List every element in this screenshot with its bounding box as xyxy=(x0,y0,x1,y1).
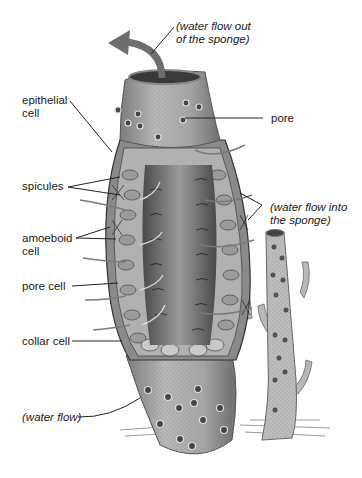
label-spicules: spicules xyxy=(22,180,64,193)
label-water-flow-out: (water flow out of the sponge) xyxy=(176,20,251,46)
sponge-diagram: (water flow out of the sponge) epithelia… xyxy=(0,0,362,478)
sponge-body-cutaway xyxy=(80,140,254,360)
sponge-top xyxy=(115,70,220,148)
sponge-base xyxy=(126,355,236,454)
label-amoeboid-cell: amoeboid cell xyxy=(22,232,73,258)
label-water-flow: (water flow) xyxy=(22,411,81,424)
label-epithelial-cell: epithelial cell xyxy=(22,94,67,120)
label-pore: pore xyxy=(271,112,294,125)
label-collar-cell: collar cell xyxy=(22,335,70,348)
label-water-flow-into: (water flow into the sponge) xyxy=(270,201,347,227)
label-pore-cell: pore cell xyxy=(22,280,65,293)
